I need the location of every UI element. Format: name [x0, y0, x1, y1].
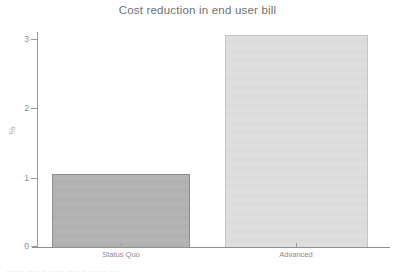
chart-figure: Cost reduction in end user bill % 3 2 1 …: [0, 0, 395, 274]
y-tick-mark-3: [31, 39, 38, 40]
x-axis-label-advanced: Advanced: [246, 251, 346, 259]
x-tick-mark-advanced: [296, 243, 297, 248]
y-tick-label-2: 2: [16, 104, 29, 113]
y-tick-mark-2: [31, 108, 38, 109]
y-axis-spine: [37, 32, 38, 248]
y-tick-mark-1: [31, 178, 38, 179]
chart-title: Cost reduction in end user bill: [0, 4, 395, 16]
y-tick-label-0: 0: [16, 242, 29, 251]
y-tick-label-3: 3: [16, 35, 29, 44]
bar-status-quo: [52, 174, 190, 248]
x-tick-mark-status-quo: [121, 243, 122, 248]
x-axis-spine: [32, 247, 390, 248]
y-axis-label: %: [8, 122, 17, 140]
x-axis-label-status-quo: Status Quo: [71, 251, 171, 259]
caption-fragment: ........ ...... .. .. .... ... .. .. .. …: [6, 265, 395, 274]
bar-advanced: [225, 35, 368, 248]
y-tick-label-1: 1: [16, 174, 29, 183]
